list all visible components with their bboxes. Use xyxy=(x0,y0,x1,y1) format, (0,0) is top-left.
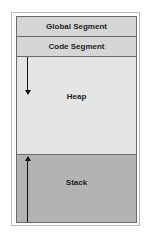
stack-label: Stack xyxy=(17,178,136,187)
heap-label: Heap xyxy=(17,92,136,101)
stack-segment: Stack xyxy=(17,155,136,222)
arrowhead-up-icon xyxy=(25,156,31,161)
heap-segment: Heap xyxy=(17,57,136,155)
memory-layout-diagram: Global Segment Code Segment Heap Stack xyxy=(16,16,137,223)
global-segment: Global Segment xyxy=(17,17,136,37)
code-segment: Code Segment xyxy=(17,37,136,57)
global-segment-label: Global Segment xyxy=(46,22,107,31)
stack-growth-arrow-up-icon xyxy=(27,161,28,222)
code-segment-label: Code Segment xyxy=(48,42,104,51)
heap-growth-arrow-down-icon xyxy=(27,57,28,91)
